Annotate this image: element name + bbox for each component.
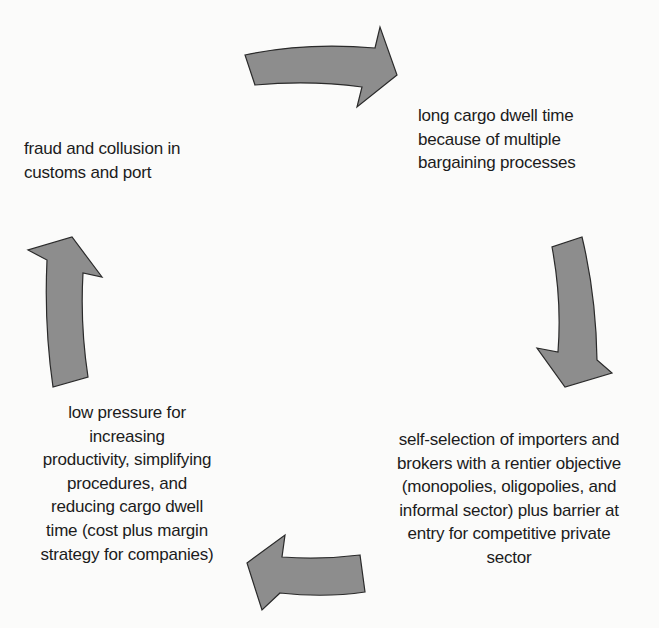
curved-arrow-down-icon bbox=[537, 237, 612, 387]
curved-arrow-left-icon bbox=[247, 535, 365, 610]
cycle-node-fraud-and-collusion: fraud and collusion in customs and port bbox=[24, 137, 254, 184]
cycle-node-self-selection-of-importers: self-selection of importers and brokers … bbox=[360, 428, 658, 570]
cycle-node-long-cargo-dwell-time: long cargo dwell time because of multipl… bbox=[418, 104, 648, 175]
curved-arrow-right-icon bbox=[245, 27, 397, 107]
cycle-diagram: long cargo dwell time because of multipl… bbox=[0, 0, 659, 628]
cycle-node-low-pressure-for-productivity: low pressure for increasing productivity… bbox=[2, 401, 252, 566]
curved-arrow-up-icon bbox=[28, 237, 102, 387]
